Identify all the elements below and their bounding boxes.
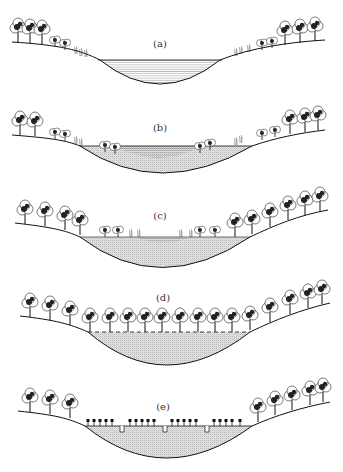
panel-d (20, 280, 330, 365)
panel-a (10, 17, 325, 84)
panel-b (12, 106, 326, 173)
panel-label-c: (c) (153, 210, 166, 221)
panel-label-d: (d) (156, 292, 170, 303)
panel-c (15, 187, 328, 268)
panel-label-b: (b) (153, 122, 167, 133)
succession-diagram (0, 0, 343, 472)
panel-label-e: (e) (156, 401, 170, 412)
panel-e (18, 378, 331, 458)
panel-label-a: (a) (153, 38, 167, 49)
